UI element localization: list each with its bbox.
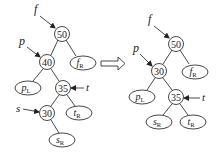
edge-35-tR bbox=[180, 104, 188, 115]
pointer-p-label: p bbox=[18, 34, 25, 48]
edge-30-35 bbox=[163, 78, 172, 90]
tree-diagram: f p t s 50 40 35 30 fR pL tR sR bbox=[0, 0, 218, 162]
node-50-right-label: 50 bbox=[171, 39, 181, 50]
edge-50-40 bbox=[51, 40, 58, 55]
edge-35-tR bbox=[67, 95, 75, 106]
edge-35-sR bbox=[163, 104, 172, 115]
pointer-f-label: f bbox=[34, 2, 39, 16]
edge-30-sR bbox=[51, 120, 59, 133]
pointer-f-arrow bbox=[40, 16, 55, 28]
edge-40-35 bbox=[51, 69, 59, 81]
pointer-p-label-right: p bbox=[132, 41, 139, 55]
pointer-f-arrow-right bbox=[154, 26, 169, 38]
pointer-s-arrow bbox=[23, 109, 39, 112]
edge-50-30 bbox=[163, 50, 172, 64]
edge-50-fR bbox=[66, 40, 76, 56]
pointer-s-label: s bbox=[16, 102, 20, 114]
pointer-t-label-right: t bbox=[202, 91, 206, 103]
pointer-p-arrow bbox=[27, 47, 40, 57]
node-35-label: 35 bbox=[58, 83, 68, 94]
pointer-p-arrow-right bbox=[140, 54, 152, 66]
node-50-label: 50 bbox=[57, 29, 67, 40]
node-30-label: 30 bbox=[42, 108, 52, 119]
node-35-right-label: 35 bbox=[171, 92, 181, 103]
node-30-right-label: 30 bbox=[154, 66, 164, 77]
edge-35-30 bbox=[51, 95, 59, 106]
right-tree: f p t 50 30 35 fR pL sR tR bbox=[129, 12, 208, 129]
pointer-t-label: t bbox=[86, 81, 90, 93]
pointer-f-label-right: f bbox=[148, 12, 153, 26]
node-40-label: 40 bbox=[42, 57, 52, 68]
edge-40-pL bbox=[33, 69, 43, 81]
edge-30-pL bbox=[147, 78, 155, 90]
double-arrow-right-icon bbox=[101, 57, 125, 70]
left-tree: f p t s 50 40 35 30 fR pL tR sR bbox=[15, 2, 96, 147]
edge-50-fR bbox=[180, 50, 189, 64]
